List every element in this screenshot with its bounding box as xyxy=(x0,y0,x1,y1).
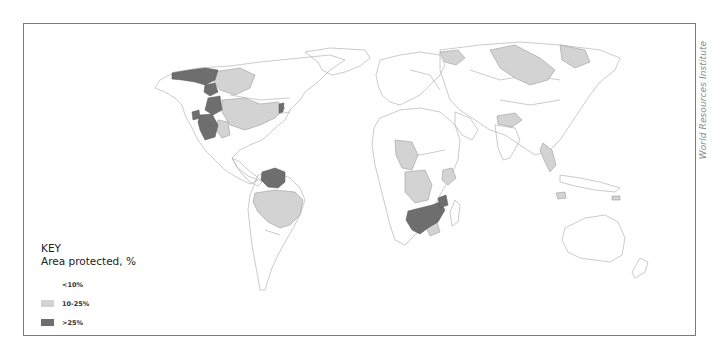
south-america-outline xyxy=(248,172,305,290)
legend-item-mid: 10-25% xyxy=(41,294,136,313)
region-high-yukon xyxy=(172,68,218,85)
new-zealand-outline xyxy=(632,258,648,278)
region-mid-tarim xyxy=(497,113,522,127)
region-mid-nile-east xyxy=(442,168,456,185)
legend-swatch-low xyxy=(41,281,54,288)
legend-swatch-high xyxy=(41,319,54,326)
credit-text: World Resources Institute xyxy=(698,41,708,159)
region-high-columbia xyxy=(205,96,222,115)
legend-title: KEY xyxy=(41,242,136,255)
legend-label-high: >25% xyxy=(62,319,83,327)
region-high-orinoco xyxy=(261,168,285,188)
region-mid-mackenzie xyxy=(213,68,255,95)
australia-outline xyxy=(562,215,625,262)
legend-items: <10% 10-25% >25% xyxy=(41,275,136,332)
legend-label-mid: 10-25% xyxy=(62,300,89,308)
region-high-rufiji xyxy=(438,195,448,208)
region-high-california xyxy=(192,110,200,120)
greenland-outline xyxy=(305,48,370,75)
madagascar-outline xyxy=(450,200,460,226)
region-mid-rio-grande xyxy=(216,120,230,138)
legend-item-high: >25% xyxy=(41,313,136,332)
legend-label-low: <10% xyxy=(62,281,83,289)
region-mid-ob xyxy=(490,45,555,85)
region-mid-amazon xyxy=(253,190,303,228)
region-mid-congo xyxy=(405,170,432,203)
indonesia-outline xyxy=(560,175,620,192)
region-high-st-lawrence xyxy=(279,103,284,113)
region-high-fraser xyxy=(204,83,218,96)
europe-outline xyxy=(376,52,445,105)
central-america-outline xyxy=(232,158,262,186)
region-mid-mekong xyxy=(540,143,556,172)
region-mid-borneo xyxy=(556,192,566,199)
region-mid-mississippi xyxy=(222,98,285,130)
region-mid-new-guinea xyxy=(612,196,620,200)
map-legend: KEY Area protected, % <10% 10-25% >25% xyxy=(41,242,136,332)
legend-swatch-mid xyxy=(41,300,54,307)
legend-item-low: <10% xyxy=(41,275,136,294)
region-mid-niger xyxy=(395,140,418,170)
legend-subtitle: Area protected, % xyxy=(41,255,136,268)
region-high-colorado xyxy=(198,114,218,140)
